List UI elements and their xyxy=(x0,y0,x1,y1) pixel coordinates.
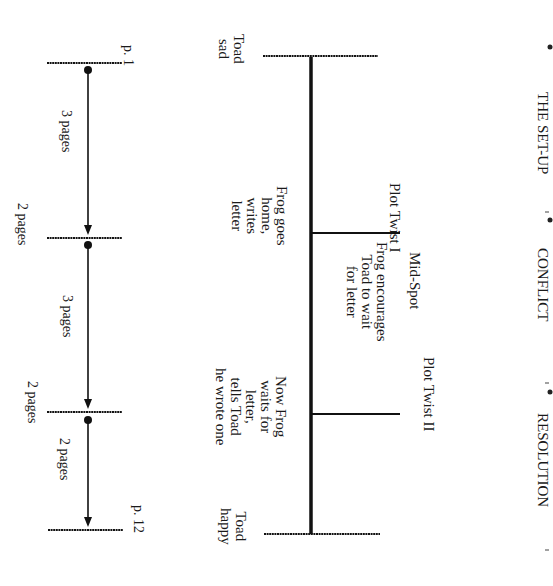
segment-2-pages: 3 pages xyxy=(60,295,74,337)
mid-spot-event: Frog encourages Toad to wait for letter xyxy=(344,242,389,342)
start-label: Toad sad xyxy=(216,34,246,64)
mid-spot-label: Mid-Spot xyxy=(407,252,422,310)
plot-twist-2-label: Plot Twist II xyxy=(421,357,436,432)
section-setup-label: THE SET-UP xyxy=(535,92,550,174)
section-resolution-label: RESOLUTION xyxy=(535,413,550,507)
segment-3-pages: 2 pages xyxy=(57,438,71,480)
end-page-label: p. 12 xyxy=(131,505,145,533)
start-page-label: p. 1 xyxy=(121,45,135,66)
end-label: Toad happy xyxy=(218,508,248,545)
gap-2-pages: 2 pages xyxy=(25,381,39,423)
segment-1-pages: 3 pages xyxy=(59,110,73,152)
diagram-lines xyxy=(0,0,553,586)
gap-1-pages: 2 pages xyxy=(15,203,29,245)
plot-twist-2-event: Now Frog waits for letter, tells Toad he… xyxy=(213,368,288,445)
section-conflict-label: CONFLICT xyxy=(535,248,550,321)
plot-twist-1-event: Frog goes home, writes letter xyxy=(229,186,289,246)
